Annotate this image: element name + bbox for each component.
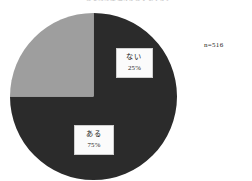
pie-slice-label-aru-name: ある	[75, 129, 113, 140]
pie-slice-label-aru-percent: 75%	[75, 140, 113, 151]
sample-size-annotation: n=516	[204, 41, 223, 49]
pie-slice-nai	[10, 13, 94, 97]
pie-slice-label-nai-name: ない	[117, 52, 152, 63]
pie-slice-label-nai-percent: 25%	[117, 63, 152, 74]
pie-slice-label-nai: ない 25%	[116, 48, 153, 78]
pie-chart-figure: 「あなたには悩みがありますか」 ない 25% ある 75% n=516	[0, 0, 252, 181]
pie-slice-label-aru: ある 75%	[74, 125, 114, 155]
chart-title: 「あなたには悩みがありますか」	[0, 0, 252, 2]
